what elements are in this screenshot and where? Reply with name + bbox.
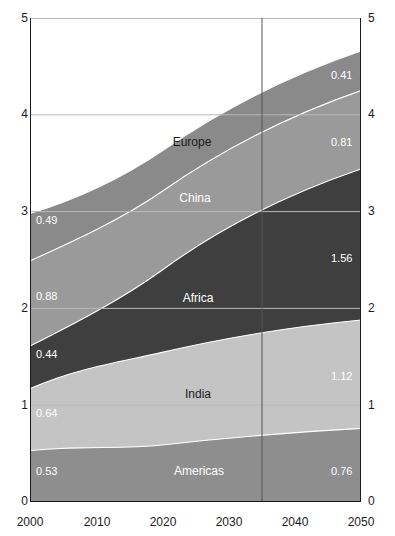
series-label-europe: Europe [162,136,222,148]
y-axis-label-right-1: 1 [368,399,388,411]
plot-svg [30,18,361,502]
x-axis-label-2050: 2050 [339,516,383,528]
y-axis-label-left-0: 0 [8,495,28,507]
value-label-europe-end: 0.81 [331,137,352,148]
stacked-area-chart: 5 4 3 2 1 0 5 4 3 2 1 0 2000 2010 2020 2… [0,0,395,536]
y-axis-label-left-4: 4 [8,108,28,120]
plot-area [30,18,361,502]
series-label-americas: Americas [154,465,244,477]
value-label-africa-end: 1.56 [331,253,352,264]
value-label-americas-start: 0.53 [36,466,57,477]
x-axis-label-2040: 2040 [273,516,317,528]
series-label-china: China [165,192,225,204]
series-label-india: India [168,388,228,400]
y-axis-label-left-5: 5 [8,12,28,24]
y-axis-label-left-3: 3 [8,205,28,217]
y-axis-label-right-2: 2 [368,302,388,314]
y-axis-label-right-4: 4 [368,108,388,120]
x-axis-label-2020: 2020 [141,516,185,528]
y-axis-label-right-3: 3 [368,205,388,217]
y-axis-label-left-1: 1 [8,399,28,411]
x-axis-label-2000: 2000 [8,516,52,528]
value-label-india-end: 1.12 [331,371,352,382]
series-label-africa: Africa [168,292,228,304]
value-label-india-start: 0.64 [36,408,57,419]
value-label-europe-start: 0.49 [36,215,57,226]
x-axis-label-2030: 2030 [207,516,251,528]
y-axis-label-right-0: 0 [368,495,388,507]
value-label-africa-start: 0.44 [36,349,57,360]
x-axis-label-2010: 2010 [75,516,119,528]
value-label-top-end: 0.41 [331,70,352,81]
y-axis-label-left-2: 2 [8,302,28,314]
value-label-china-start: 0.88 [36,291,57,302]
y-axis-label-right-5: 5 [368,12,388,24]
value-label-americas-end: 0.76 [331,466,352,477]
